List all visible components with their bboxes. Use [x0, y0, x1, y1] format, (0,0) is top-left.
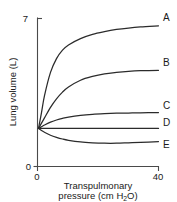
chart-canvas: A B C D E 7 0 0 40 Lung volume (L) Trans…: [0, 0, 177, 202]
curve-label-e: E: [163, 139, 170, 150]
curve-c: [39, 113, 159, 129]
x-tick-label-right: 40: [153, 171, 164, 182]
curve-label-b: B: [163, 57, 170, 68]
curve-label-d: D: [163, 117, 170, 128]
x-tick-label-left: 0: [34, 171, 39, 182]
curve-label-a: A: [163, 12, 170, 23]
curve-label-c: C: [163, 100, 170, 111]
lung-compliance-chart: A B C D E 7 0 0 40 Lung volume (L) Trans…: [0, 0, 177, 202]
curve-e: [39, 128, 159, 143]
y-tick-label-bottom: 0: [26, 161, 31, 172]
y-tick-label-top: 7: [23, 13, 28, 24]
y-axis-title: Lung volume (L): [7, 58, 18, 127]
x-axis-title-line2: pressure (cm H2O): [58, 190, 137, 202]
